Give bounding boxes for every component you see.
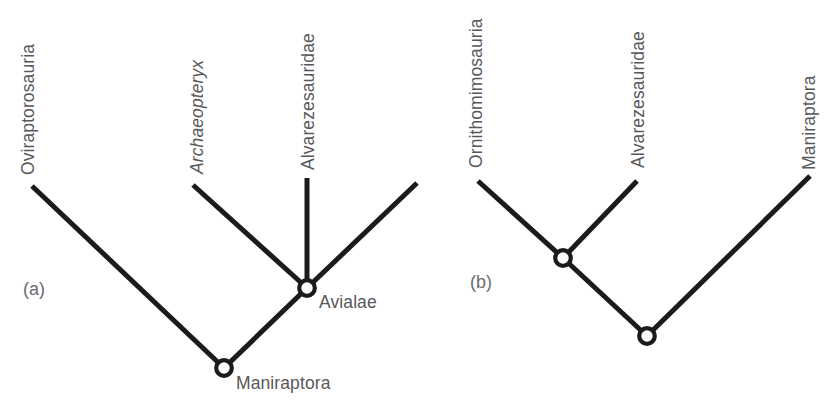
branch-a-oviraptorosauria — [32, 186, 224, 368]
tip-label-maniraptora-b: Maniraptora — [799, 75, 819, 170]
branch-a-unnamed-right — [307, 183, 417, 288]
node-label-maniraptora-a: Maniraptora — [236, 373, 331, 393]
cladogram-canvas: Oviraptorosauria Archaeopteryx Alvarezes… — [0, 0, 826, 408]
branch-b-ornithomimosauria — [478, 181, 563, 258]
branch-a-maniraptora-to-avialae — [224, 288, 307, 368]
tip-label-archaeopteryx: Archaeopteryx — [187, 59, 207, 175]
tip-label-ornithomimosauria: Ornithomimosauria — [466, 18, 486, 168]
tip-label-alvarezesauridae-b: Alvarezesauridae — [628, 31, 648, 168]
panel-label-b: (b) — [470, 272, 492, 292]
cladogram-figure: Oviraptorosauria Archaeopteryx Alvarezes… — [0, 0, 826, 408]
branch-b-alvarezesauridae — [563, 181, 637, 258]
node-label-avialae: Avialae — [319, 292, 377, 312]
branch-b-lower-to-upper-node — [563, 258, 647, 336]
node-a-avialae — [299, 280, 315, 296]
tip-label-alvarezesauridae-a: Alvarezesauridae — [298, 33, 318, 170]
panel-a: Oviraptorosauria Archaeopteryx Alvarezes… — [18, 33, 417, 393]
panel-b: Ornithomimosauria Alvarezesauridae Manir… — [466, 18, 819, 343]
node-b-lower — [639, 328, 655, 344]
branch-a-archaeopteryx — [193, 185, 307, 288]
panel-label-a: (a) — [23, 279, 45, 299]
node-b-upper — [555, 250, 571, 266]
node-a-maniraptora — [216, 360, 232, 376]
branch-b-maniraptora — [647, 176, 810, 336]
tip-label-oviraptorosauria: Oviraptorosauria — [18, 44, 38, 175]
